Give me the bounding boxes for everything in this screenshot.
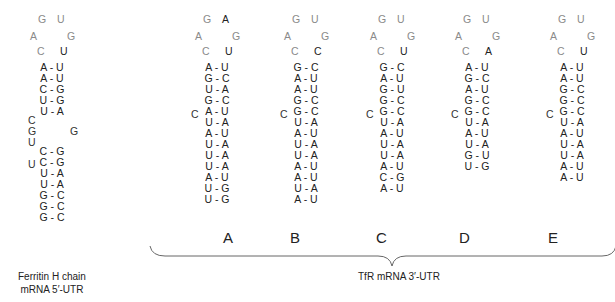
tfr-caption: TfR mRNA 3′-UTR	[358, 270, 440, 283]
brace-bracket	[0, 0, 615, 302]
